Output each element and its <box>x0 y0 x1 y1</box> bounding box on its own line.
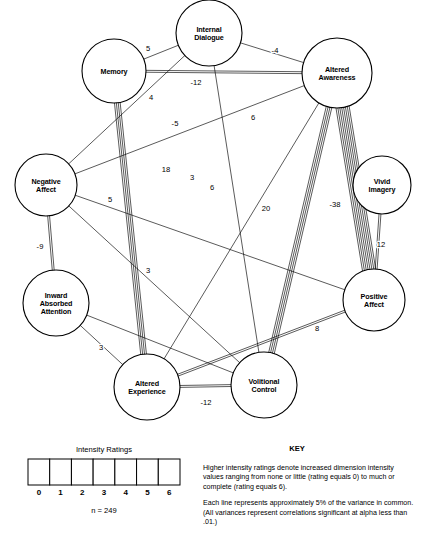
edge-weight-label: 5 <box>108 195 112 204</box>
node-label: Affect <box>364 300 384 309</box>
node-label: Experience <box>128 387 165 396</box>
node-label: Memory <box>101 67 128 76</box>
key-line: (All variances represent correlations si… <box>203 509 407 517</box>
network-figure: InternalInternalDialogueDialogueMemoryMe… <box>0 0 422 539</box>
edge-weight-label: 6 <box>251 113 255 122</box>
node-altered_experience[interactable]: AlteredAlteredExperienceExperience <box>114 354 180 420</box>
node-label: Imagery <box>369 185 396 194</box>
edge-negative_affect-to-inward_absorbed_attention <box>48 214 55 272</box>
legend-title: Intensity Ratings <box>76 445 132 454</box>
key-line: .01.) <box>203 518 217 526</box>
edge-weight-label: -12 <box>201 398 212 407</box>
intensity-tick-1: 1 <box>58 488 63 497</box>
edge-weight-label: -9 <box>37 242 44 251</box>
edge-weight-label: -12 <box>191 78 202 87</box>
key-line: Higher intensity ratings denote increase… <box>203 464 394 472</box>
intensity-tick-4: 4 <box>123 488 128 497</box>
edge-altered_awareness-to-altered_experience <box>163 101 320 360</box>
edge-weight-label: 8 <box>315 324 319 333</box>
legend-tick-labels: 0123456 <box>37 488 172 497</box>
edge-weight-label: 3 <box>190 173 194 182</box>
edge-altered_awareness-to-volitional_control <box>268 104 332 355</box>
intensity-swatch-0 <box>28 459 50 485</box>
node-label: Attention <box>41 307 72 316</box>
intensity-swatch-1 <box>50 459 72 485</box>
sample-size-label: n = 249 <box>91 506 117 515</box>
edge-internal_dialogue-to-volitional_control <box>214 64 259 355</box>
intensity-swatch-6 <box>158 459 180 485</box>
node-memory[interactable]: MemoryMemory <box>82 39 146 103</box>
intensity-tick-6: 6 <box>167 488 172 497</box>
intensity-tick-2: 2 <box>80 488 85 497</box>
node-label: Control <box>252 385 277 394</box>
key-line: values ranging from none or little (rati… <box>203 473 395 481</box>
legend-swatches <box>28 459 180 485</box>
edge-weight-label: 6 <box>210 183 214 192</box>
edge-weight-label: 20 <box>262 204 270 213</box>
node-vivid_imagery[interactable]: VividVividImageryImagery <box>353 156 411 214</box>
nodes-layer: InternalInternalDialogueDialogueMemoryMe… <box>15 0 411 420</box>
edge-weight-label: 18 <box>162 165 170 174</box>
key-heading: KEY <box>289 444 305 453</box>
edge-weight-label: 12 <box>377 240 385 249</box>
edge-weight-label: 3 <box>99 343 103 352</box>
node-internal_dialogue[interactable]: InternalInternalDialogueDialogue <box>176 0 242 66</box>
node-altered_awareness[interactable]: AlteredAlteredAwarenessAwareness <box>302 38 372 108</box>
intensity-swatch-4 <box>115 459 137 485</box>
intensity-swatch-3 <box>93 459 115 485</box>
intensity-swatch-2 <box>71 459 93 485</box>
intensity-swatch-5 <box>137 459 159 485</box>
edge-altered_experience-to-volitional_control <box>178 385 233 388</box>
key-line: Each line represents approximately 5% of… <box>203 499 413 507</box>
node-label: Awareness <box>319 73 356 82</box>
edge-weight-label: -5 <box>172 119 179 128</box>
edge-memory-to-altered_experience <box>114 101 146 357</box>
key-line: complete (rating equals 6). <box>203 483 287 491</box>
edge-weight-label: -38 <box>330 200 341 209</box>
node-positive_affect[interactable]: PositivePositiveAffectAffect <box>343 269 405 331</box>
node-volitional_control[interactable]: VolitionalVolitionalControlControl <box>231 352 297 418</box>
intensity-ratings-legend: Intensity Ratings 0123456 n = 249 <box>28 445 180 515</box>
node-label: Affect <box>36 185 56 194</box>
edge-negative_affect-to-volitional_control <box>67 205 241 364</box>
key-text-block: Higher intensity ratings denote increase… <box>203 464 413 526</box>
node-label: Dialogue <box>194 33 224 42</box>
edge-weight-label: 5 <box>146 44 150 53</box>
network-diagram-svg: InternalInternalDialogueDialogueMemoryMe… <box>0 0 422 539</box>
edge-weight-label: -4 <box>272 46 279 55</box>
edge-negative_affect-to-positive_affect <box>73 195 346 291</box>
node-inward_absorbed_attention[interactable]: InwardInwardAbsorbedAbsorbedAttentionAtt… <box>23 270 89 336</box>
intensity-tick-5: 5 <box>145 488 150 497</box>
key-panel: KEY Higher intensity ratings denote incr… <box>203 444 413 526</box>
intensity-tick-3: 3 <box>102 488 107 497</box>
node-negative_affect[interactable]: NegativeNegativeAffectAffect <box>15 154 77 216</box>
intensity-tick-0: 0 <box>37 488 42 497</box>
edge-weight-label: 3 <box>146 266 150 275</box>
edge-weight-label: 4 <box>149 93 153 102</box>
